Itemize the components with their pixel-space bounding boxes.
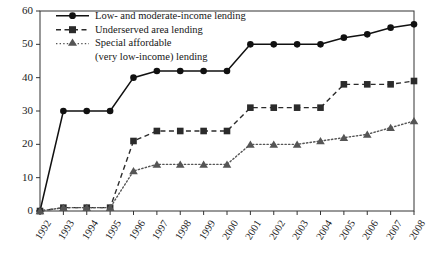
data-point xyxy=(387,24,394,31)
series-line xyxy=(40,81,414,211)
data-point xyxy=(364,81,371,88)
legend-marker-circle-icon xyxy=(55,9,95,23)
data-point xyxy=(224,68,231,75)
data-point xyxy=(341,81,348,88)
data-point xyxy=(224,128,231,135)
data-point xyxy=(130,74,137,81)
y-axis-tick-label: 10 xyxy=(9,172,33,183)
y-axis-tick-label: 20 xyxy=(9,138,33,149)
data-point xyxy=(130,138,137,145)
legend-label-0: Low- and moderate-income lending xyxy=(95,9,246,23)
legend-label-1: Underserved area lending xyxy=(95,23,203,37)
legend-marker-square-icon xyxy=(55,23,95,37)
data-point xyxy=(294,41,301,48)
data-point xyxy=(410,117,419,124)
data-point xyxy=(411,21,418,28)
data-point xyxy=(200,68,207,75)
data-point xyxy=(60,108,67,115)
data-point xyxy=(411,78,418,85)
data-point xyxy=(200,128,207,135)
data-point xyxy=(154,68,161,75)
legend-item-1: Underserved area lending xyxy=(55,23,246,37)
data-point xyxy=(83,108,90,115)
data-point xyxy=(317,104,324,111)
data-point xyxy=(270,104,277,111)
data-point xyxy=(270,41,277,48)
y-axis-tick-label: 40 xyxy=(9,72,33,83)
data-point xyxy=(364,31,371,38)
y-axis-tick-label: 0 xyxy=(9,205,33,216)
data-point xyxy=(247,41,254,48)
data-point xyxy=(177,68,184,75)
data-point xyxy=(316,137,325,144)
series-2 xyxy=(37,78,418,215)
legend-marker-triangle-icon xyxy=(55,36,95,50)
legend-item-0: Low- and moderate-income lending xyxy=(55,9,246,23)
y-axis-tick-label: 60 xyxy=(9,5,33,16)
data-point xyxy=(294,104,301,111)
data-point xyxy=(341,34,348,41)
y-axis-tick-label: 50 xyxy=(9,38,33,49)
chart-legend: Low- and moderate-income lending Underse… xyxy=(55,9,246,63)
data-point xyxy=(107,108,114,115)
data-point xyxy=(247,104,254,111)
chart-container: Low- and moderate-income lending Underse… xyxy=(0,0,427,256)
legend-label-2-sub: (very low-income) lending xyxy=(55,50,246,64)
legend-item-2: Special affordable xyxy=(55,36,246,50)
data-point xyxy=(387,81,394,88)
data-point xyxy=(177,128,184,135)
data-point xyxy=(317,41,324,48)
data-point xyxy=(386,124,395,131)
y-axis-tick-label: 30 xyxy=(9,105,33,116)
data-point xyxy=(154,128,161,135)
legend-label-2: Special affordable xyxy=(95,36,171,50)
